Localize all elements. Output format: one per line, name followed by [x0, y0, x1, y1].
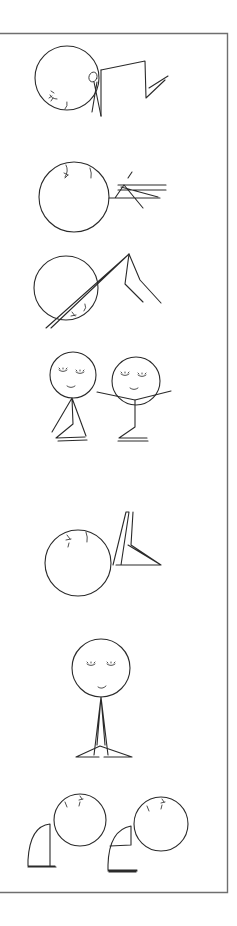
figure-pose-2 [39, 162, 166, 232]
leg-lines [113, 512, 161, 565]
hand-icon [88, 71, 99, 83]
eye-mark [49, 91, 57, 101]
head-icon [134, 797, 188, 851]
head-icon [35, 46, 99, 110]
figure-pose-7a [28, 794, 106, 867]
limb-lines [118, 172, 166, 197]
figure-pose-3 [34, 254, 161, 328]
body-lines [28, 824, 56, 867]
feet-lines [76, 746, 132, 757]
body-lines [108, 826, 137, 872]
illustration-frame [0, 34, 228, 893]
figure-pose-5 [45, 512, 161, 596]
closed-eye-icon [87, 662, 95, 666]
figure-pose-4b [97, 357, 171, 441]
eye-mark [147, 799, 165, 811]
eye-mark [66, 532, 87, 547]
head-icon [39, 162, 109, 232]
smile-icon [67, 386, 75, 388]
body-lines [52, 398, 87, 441]
leg-lines [109, 185, 160, 208]
arm-lines [92, 82, 101, 116]
leg-lines [125, 254, 161, 303]
figure-pose-4a [50, 352, 96, 441]
leg-lines [101, 61, 168, 98]
closed-eye-icon [121, 372, 129, 376]
eye-mark [65, 102, 67, 109]
figure-pose-6 [72, 639, 132, 757]
head-icon [45, 530, 111, 596]
head-icon [112, 357, 160, 405]
closed-eye-icon [107, 662, 115, 666]
eye-mark [90, 168, 91, 178]
smile-icon [130, 388, 138, 390]
yoga-illustration [0, 0, 237, 926]
eye-mark [64, 165, 68, 178]
head-icon [50, 352, 96, 398]
arm-lines [97, 391, 171, 400]
closed-eye-icon [59, 368, 67, 372]
closed-eye-icon [138, 373, 146, 377]
figure-pose-7b [108, 797, 188, 872]
smile-icon [98, 686, 106, 688]
body-lines [118, 400, 148, 441]
figure-pose-1 [35, 46, 168, 116]
closed-eye-icon [76, 370, 84, 374]
body-line [46, 254, 129, 328]
